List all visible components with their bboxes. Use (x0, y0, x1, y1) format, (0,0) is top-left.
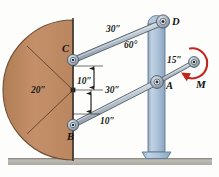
label-crank-length: 15″ (167, 55, 182, 65)
label-moment-M: M (195, 78, 207, 90)
dimension-lines (73, 66, 103, 114)
point-label-B: B (66, 131, 74, 142)
label-lower-link-length: 30″ (104, 85, 120, 95)
label-upper-link-length: 30″ (105, 24, 121, 34)
pin-joint-crank-end (189, 57, 200, 68)
point-label-C: C (62, 43, 70, 54)
point-label-A: A (165, 80, 173, 91)
pin-joint-B (67, 119, 78, 130)
pin-joint-C (67, 54, 78, 65)
pin-joint-D (156, 15, 169, 28)
label-angle-at-d: 60° (124, 40, 138, 50)
mechanics-figure: 20″ 30″ 60° 10″ 30″ 10″ 15″ D C A B M (0, 0, 219, 177)
label-plate-radius: 20″ (30, 85, 46, 95)
label-offset-lower: 10″ (100, 116, 115, 126)
ground-surface (8, 158, 212, 165)
figure-canvas: 20″ 30″ 60° 10″ 30″ 10″ 15″ D C A B M (0, 0, 219, 177)
pin-joint-A (151, 76, 164, 89)
point-label-D: D (171, 16, 180, 27)
label-offset-upper: 10″ (77, 76, 92, 86)
